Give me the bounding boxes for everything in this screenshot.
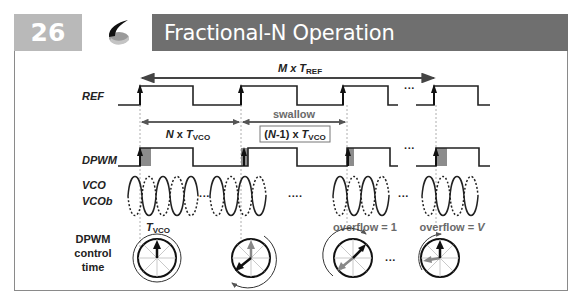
- n-tvco-label: N x TVCO: [166, 128, 210, 142]
- dpwm-label: DPWM: [82, 154, 118, 166]
- vco-waveforms: [128, 177, 478, 216]
- vco-ellipsis-3: ···: [398, 190, 409, 202]
- n-tvco-span: N x TVCO: [142, 122, 239, 142]
- dpwm-ellipsis: ···: [404, 142, 415, 154]
- overflow-1-label: overflow = 1: [333, 221, 397, 233]
- swallow-label: swallow: [273, 108, 316, 120]
- control-label-line1: DPWM: [76, 233, 111, 245]
- ref-label: REF: [82, 90, 104, 102]
- fractional-n-timing-diagram: M x TREF REF ··· N x TVCO swallow (N-1): [0, 0, 574, 299]
- dpwm-shading: [140, 148, 447, 166]
- phase-dial-3: [323, 228, 372, 277]
- ref-edge-arrows: [137, 84, 437, 105]
- dial-ellipsis: ···: [385, 254, 396, 266]
- vcob-label: VCOb: [82, 195, 113, 207]
- m-tref-span: M x TREF: [142, 62, 434, 78]
- vco-ellipsis-2: ····: [288, 190, 303, 202]
- swallow-span: swallow (N-1) x TVCO: [243, 108, 345, 142]
- control-label-line3: time: [82, 261, 105, 273]
- ref-ellipsis: ···: [404, 82, 415, 94]
- control-label-line2: control: [74, 247, 111, 259]
- phase-dial-2: [232, 236, 276, 288]
- m-tref-label: M x TREF: [278, 62, 322, 76]
- overflow-v-label: overflow = V: [419, 221, 486, 233]
- vco-ellipsis-1: ···: [199, 190, 210, 202]
- vco-label: VCO: [82, 179, 106, 191]
- dpwm-waveform: [118, 148, 490, 166]
- phase-dial-4: [419, 234, 459, 277]
- dpwm-edge-arrows: [137, 147, 439, 166]
- dial-tvco-label: TVCO: [146, 221, 170, 235]
